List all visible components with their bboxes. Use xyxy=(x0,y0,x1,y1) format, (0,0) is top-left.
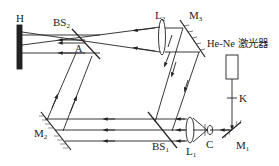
label-M2-sub: 2 xyxy=(44,133,48,141)
label-M3-main: M xyxy=(189,9,199,21)
label-BS1-main: BS xyxy=(152,140,165,152)
mirror-M3 xyxy=(180,20,205,57)
label-M1-sub: 1 xyxy=(246,145,250,153)
label-K: K xyxy=(239,93,247,104)
label-BS2-main: BS xyxy=(53,16,66,28)
label-M2: M2 xyxy=(34,128,47,141)
hologram-plate-H xyxy=(17,25,22,69)
label-BS1: BS1 xyxy=(152,141,169,154)
label-M3-sub: 3 xyxy=(199,15,203,23)
label-BS2: BS2 xyxy=(53,17,70,30)
label-C: C xyxy=(206,139,213,150)
label-L1-main: L xyxy=(186,145,193,157)
label-BS2-sub: 2 xyxy=(66,22,70,30)
label-L1: L1 xyxy=(186,146,196,159)
lens-L1 xyxy=(186,117,194,143)
label-M1-main: M xyxy=(236,139,246,151)
label-M3: M3 xyxy=(189,10,202,23)
label-laser: He-Ne 激光器 xyxy=(207,39,268,50)
label-H: H xyxy=(16,13,24,24)
label-M1: M1 xyxy=(236,140,249,153)
label-A: A xyxy=(75,44,82,54)
label-M2-main: M xyxy=(34,127,44,139)
label-L1-sub: 1 xyxy=(193,151,197,159)
label-L2: L2 xyxy=(155,10,165,23)
label-L2-sub: 2 xyxy=(162,15,166,23)
lens-L2 xyxy=(159,19,166,55)
laser-box xyxy=(226,55,238,79)
label-BS1-sub: 1 xyxy=(165,146,169,154)
label-L2-main: L xyxy=(155,9,162,21)
